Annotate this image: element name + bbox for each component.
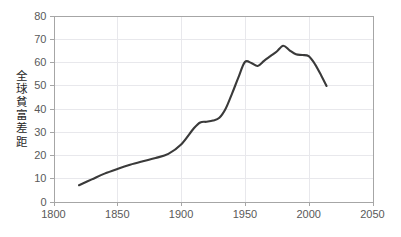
y-axis-title-char-5: 距 xyxy=(16,135,28,149)
chart-background xyxy=(0,0,401,237)
y-tick-label-20: 20 xyxy=(34,149,46,161)
x-tick-label-1950: 1950 xyxy=(233,208,257,220)
y-tick-label-40: 40 xyxy=(34,103,46,115)
x-tick-label-1900: 1900 xyxy=(169,208,193,220)
chart-container: 01020304050607080 1800185019001950200020… xyxy=(0,0,401,237)
x-tick-label-2050: 2050 xyxy=(360,208,384,220)
y-axis-title-char-1: 球 xyxy=(16,82,28,96)
y-axis-title-char-4: 差 xyxy=(16,121,27,135)
y-tick-label-30: 30 xyxy=(34,126,46,138)
y-tick-label-70: 70 xyxy=(34,33,46,45)
x-tick-label-1850: 1850 xyxy=(105,208,129,220)
y-tick-label-0: 0 xyxy=(40,196,46,208)
y-tick-label-50: 50 xyxy=(34,79,46,91)
x-tick-label-1800: 1800 xyxy=(41,208,65,220)
y-tick-label-80: 80 xyxy=(34,10,46,22)
y-axis-tick-labels: 01020304050607080 xyxy=(34,10,46,208)
global-wealth-gap-line-chart: 01020304050607080 1800185019001950200020… xyxy=(0,0,401,237)
y-axis-title-char-2: 貧 xyxy=(16,95,28,109)
y-axis-title-char-0: 全 xyxy=(16,69,28,83)
y-axis-title: 全球貧富差距 xyxy=(16,69,28,149)
y-tick-label-60: 60 xyxy=(34,56,46,68)
y-axis-title-char-3: 富 xyxy=(16,108,27,122)
y-tick-label-10: 10 xyxy=(34,172,46,184)
x-tick-label-2000: 2000 xyxy=(296,208,320,220)
